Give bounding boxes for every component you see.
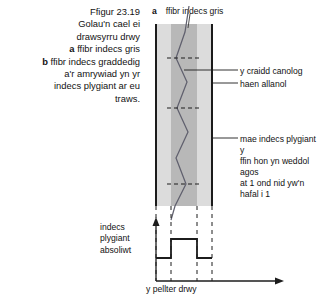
step-index-trace [156, 239, 212, 258]
fibre-diagram [155, 24, 213, 206]
y-axis-arrow-icon [153, 217, 160, 226]
figure-caption: Ffigur 23.19 Golau'n cael ei drawsyrru d… [0, 6, 140, 105]
figure-23-19: Ffigur 23.19 Golau'n cael ei drawsyrru d… [0, 0, 317, 303]
caption-figure-number: Ffigur 23.19 [0, 6, 140, 18]
fibre-label-marker: a [152, 6, 157, 16]
caption-marker-a: a [69, 43, 74, 54]
graph-x-axis-label: y pellter drwy [146, 284, 197, 294]
caption-line-3-text: ffibr indecs gris [77, 43, 140, 54]
light-ray-overlay [155, 24, 213, 206]
x-axis-arrow-icon [275, 278, 284, 285]
graph-plot [100, 206, 317, 303]
annotation-boundary-line-3: at 1 ond nid yw'n hafal i 1 [240, 178, 317, 200]
caption-line-6: indecs plygiant ar eu [0, 80, 140, 92]
fibre-label-text: ffibr indecs gris [166, 6, 224, 16]
light-ray-path [171, 6, 189, 220]
annotation-boundary-line-1: mae indecs plygiant y [240, 134, 317, 156]
refractive-index-graph: indecs plygiant absoliwt y pellter drwy [100, 206, 317, 303]
caption-line-4: b ffibr indecs graddedig [0, 56, 140, 68]
caption-line-2: drawsyrru drwy [0, 31, 140, 43]
annotation-core: y craidd canolog [240, 66, 303, 77]
caption-line-3: a ffibr indecs gris [0, 43, 140, 55]
annotation-cladding: haen allanol [240, 79, 286, 90]
annotation-boundary-line-2: ffin hon yn weddol agos [240, 156, 317, 178]
caption-line-4-text: ffibr indecs graddedig [51, 56, 140, 67]
caption-line-5: a'r amrywiad yn yr [0, 68, 140, 80]
caption-line-7: traws. [0, 93, 140, 105]
caption-line-1: Golau'n cael ei [0, 18, 140, 30]
annotation-boundary-index: mae indecs plygiant y ffin hon yn weddol… [240, 134, 317, 200]
caption-marker-b: b [42, 56, 48, 67]
